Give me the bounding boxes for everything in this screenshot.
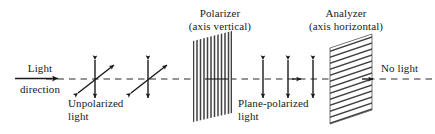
analyzer-label: Analyzer (axis horizontal) [296,7,396,32]
polarizer-label-line2: (axis vertical) [178,20,262,33]
unpolarized-light-label-line1: Unpolarized [68,97,154,110]
plane-polarized-light-label: Plane-polarized light [238,97,334,122]
polarizer-label: Polarizer (axis vertical) [178,7,262,32]
light-direction-label-bottom: direction [10,83,70,96]
no-light-label: No light [381,62,433,75]
light-direction-label-top: Light [14,62,66,75]
analyzer-label-line2: (axis horizontal) [296,20,396,33]
plane-polarized-light-label-line1: Plane-polarized [238,97,334,110]
analyzer-label-line1: Analyzer [296,7,396,20]
polarizer-plate [193,25,232,130]
plane-polarized-light-label-line2: light [238,110,334,123]
unpolarized-light-label-line2: light [68,110,154,123]
polarization-diagram: Polarizer (axis vertical) Analyzer (axis… [0,0,435,134]
unpolarized-light-label: Unpolarized light [68,97,154,122]
polarizer-label-line1: Polarizer [178,7,262,20]
